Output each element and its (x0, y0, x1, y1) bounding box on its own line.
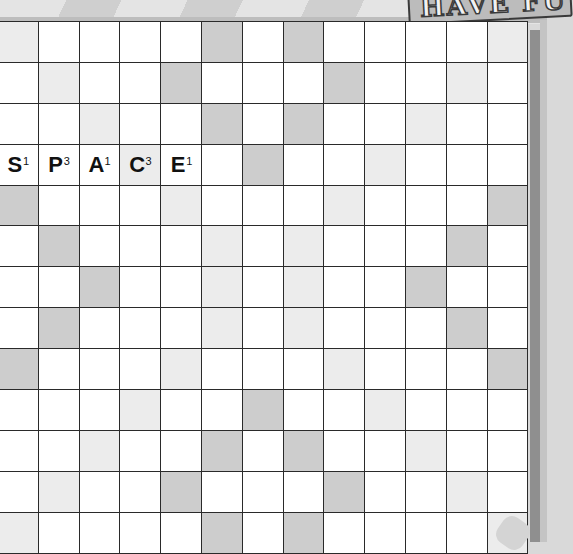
board-cell-r12-c3[interactable] (120, 513, 161, 554)
board-cell-r8-c1[interactable] (39, 349, 80, 390)
board-cell-r0-c2[interactable] (80, 22, 121, 63)
board-cell-r10-c2[interactable] (80, 431, 121, 472)
board-cell-r0-c0[interactable] (0, 22, 39, 63)
board-cell-r1-c11[interactable] (447, 63, 488, 104)
board-cell-r11-c0[interactable] (0, 472, 39, 513)
board-cell-r1-c3[interactable] (120, 63, 161, 104)
board-cell-r9-c9[interactable] (365, 390, 406, 431)
board-cell-r10-c0[interactable] (0, 431, 39, 472)
board-cell-r11-c8[interactable] (324, 472, 365, 513)
board-cell-r5-c9[interactable] (365, 226, 406, 267)
board-cell-r9-c0[interactable] (0, 390, 39, 431)
board-cell-r3-c8[interactable] (324, 145, 365, 186)
board-cell-r7-c8[interactable] (324, 308, 365, 349)
board-cell-r12-c4[interactable] (161, 513, 202, 554)
board-cell-r4-c2[interactable] (80, 186, 121, 227)
board-cell-r2-c0[interactable] (0, 104, 39, 145)
board-cell-r11-c11[interactable] (447, 472, 488, 513)
board-cell-r5-c12[interactable] (488, 226, 529, 267)
board-cell-r8-c9[interactable] (365, 349, 406, 390)
board-cell-r7-c10[interactable] (406, 308, 447, 349)
board-cell-r9-c6[interactable] (243, 390, 284, 431)
board-cell-r12-c11[interactable] (447, 513, 488, 554)
board-cell-r0-c7[interactable] (284, 22, 325, 63)
board-cell-r3-c4[interactable]: E1 (161, 145, 202, 186)
board-cell-r0-c10[interactable] (406, 22, 447, 63)
board-cell-r3-c9[interactable] (365, 145, 406, 186)
board-cell-r4-c0[interactable] (0, 186, 39, 227)
board-cell-r6-c7[interactable] (284, 267, 325, 308)
board-cell-r12-c9[interactable] (365, 513, 406, 554)
board-cell-r0-c4[interactable] (161, 22, 202, 63)
board-cell-r5-c11[interactable] (447, 226, 488, 267)
board-cell-r8-c12[interactable] (488, 349, 529, 390)
board-cell-r10-c9[interactable] (365, 431, 406, 472)
board-cell-r9-c3[interactable] (120, 390, 161, 431)
board-cell-r0-c6[interactable] (243, 22, 284, 63)
board-cell-r6-c0[interactable] (0, 267, 39, 308)
board-cell-r10-c6[interactable] (243, 431, 284, 472)
board-cell-r7-c5[interactable] (202, 308, 243, 349)
board-cell-r4-c3[interactable] (120, 186, 161, 227)
board-cell-r4-c5[interactable] (202, 186, 243, 227)
board-cell-r4-c6[interactable] (243, 186, 284, 227)
board-cell-r4-c9[interactable] (365, 186, 406, 227)
board-cell-r6-c12[interactable] (488, 267, 529, 308)
board-cell-r9-c11[interactable] (447, 390, 488, 431)
board-cell-r7-c4[interactable] (161, 308, 202, 349)
board-cell-r3-c2[interactable]: A1 (80, 145, 121, 186)
board-cell-r2-c5[interactable] (202, 104, 243, 145)
board-cell-r12-c5[interactable] (202, 513, 243, 554)
board-cell-r9-c12[interactable] (488, 390, 529, 431)
board-cell-r1-c1[interactable] (39, 63, 80, 104)
board-cell-r4-c12[interactable] (488, 186, 529, 227)
board-cell-r6-c2[interactable] (80, 267, 121, 308)
board-cell-r6-c6[interactable] (243, 267, 284, 308)
board-cell-r5-c3[interactable] (120, 226, 161, 267)
board-cell-r4-c1[interactable] (39, 186, 80, 227)
board-cell-r8-c0[interactable] (0, 349, 39, 390)
board-cell-r6-c1[interactable] (39, 267, 80, 308)
board-cell-r0-c9[interactable] (365, 22, 406, 63)
board-cell-r5-c2[interactable] (80, 226, 121, 267)
board-cell-r0-c8[interactable] (324, 22, 365, 63)
board-cell-r3-c6[interactable] (243, 145, 284, 186)
board-cell-r9-c7[interactable] (284, 390, 325, 431)
board-cell-r10-c5[interactable] (202, 431, 243, 472)
board-cell-r5-c5[interactable] (202, 226, 243, 267)
board-cell-r12-c2[interactable] (80, 513, 121, 554)
board-cell-r8-c11[interactable] (447, 349, 488, 390)
board-cell-r12-c1[interactable] (39, 513, 80, 554)
board-cell-r0-c11[interactable] (447, 22, 488, 63)
board-cell-r11-c2[interactable] (80, 472, 121, 513)
board-cell-r12-c10[interactable] (406, 513, 447, 554)
board-cell-r12-c8[interactable] (324, 513, 365, 554)
board-cell-r2-c4[interactable] (161, 104, 202, 145)
board-cell-r11-c12[interactable] (488, 472, 529, 513)
board-cell-r5-c4[interactable] (161, 226, 202, 267)
board-cell-r5-c6[interactable] (243, 226, 284, 267)
board-cell-r9-c2[interactable] (80, 390, 121, 431)
board-cell-r2-c3[interactable] (120, 104, 161, 145)
board-cell-r10-c12[interactable] (488, 431, 529, 472)
board-cell-r1-c9[interactable] (365, 63, 406, 104)
board-cell-r5-c10[interactable] (406, 226, 447, 267)
board-cell-r11-c3[interactable] (120, 472, 161, 513)
board-cell-r7-c12[interactable] (488, 308, 529, 349)
board-cell-r4-c7[interactable] (284, 186, 325, 227)
board-cell-r6-c4[interactable] (161, 267, 202, 308)
board-cell-r8-c7[interactable] (284, 349, 325, 390)
board-cell-r1-c4[interactable] (161, 63, 202, 104)
board-cell-r11-c9[interactable] (365, 472, 406, 513)
board-cell-r2-c6[interactable] (243, 104, 284, 145)
board-cell-r9-c8[interactable] (324, 390, 365, 431)
board-cell-r10-c4[interactable] (161, 431, 202, 472)
board-cell-r6-c3[interactable] (120, 267, 161, 308)
board-cell-r5-c8[interactable] (324, 226, 365, 267)
board-cell-r10-c1[interactable] (39, 431, 80, 472)
board-cell-r8-c8[interactable] (324, 349, 365, 390)
board-cell-r0-c12[interactable] (488, 22, 529, 63)
board-cell-r2-c1[interactable] (39, 104, 80, 145)
board-cell-r4-c8[interactable] (324, 186, 365, 227)
board-cell-r7-c2[interactable] (80, 308, 121, 349)
